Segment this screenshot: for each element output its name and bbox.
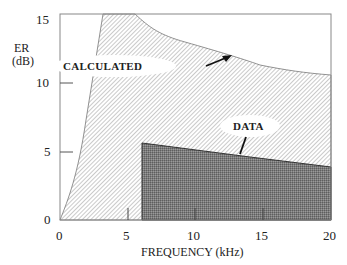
x-tick-5: 5 bbox=[123, 228, 130, 243]
y-tick-15: 15 bbox=[36, 12, 49, 27]
y-axis-ticks bbox=[60, 83, 73, 152]
y-tick-10: 10 bbox=[36, 75, 49, 90]
calculated-label: CALCULATED bbox=[63, 60, 142, 72]
y-axis-title-line1: ER bbox=[14, 41, 29, 55]
y-tick-5: 5 bbox=[44, 144, 51, 159]
er-frequency-chart: 15 10 5 0 0 5 10 15 20 ER (dB) FREQUENCY… bbox=[0, 0, 347, 265]
y-axis-title-line2: (dB) bbox=[12, 54, 34, 68]
x-tick-10: 10 bbox=[187, 228, 200, 243]
x-tick-20: 20 bbox=[323, 228, 336, 243]
y-tick-0: 0 bbox=[44, 212, 51, 227]
x-axis-title: FREQUENCY (kHz) bbox=[141, 245, 244, 259]
x-tick-0: 0 bbox=[56, 228, 63, 243]
data-label: DATA bbox=[233, 120, 264, 132]
x-tick-15: 15 bbox=[255, 228, 268, 243]
